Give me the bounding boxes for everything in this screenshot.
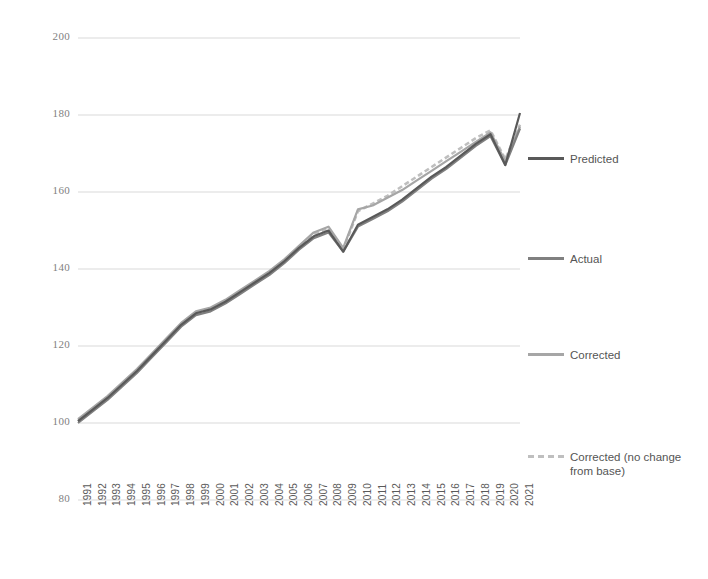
legend-swatch-icon xyxy=(528,152,564,166)
x-axis-tick-1998: 1998 xyxy=(185,483,196,506)
legend-label: Corrected xyxy=(570,348,621,362)
y-axis-tick-140: 140 xyxy=(34,261,70,273)
legend-swatch-icon xyxy=(528,252,564,266)
legend-item-corrected[interactable]: Corrected xyxy=(528,348,708,362)
series-line-predicted xyxy=(78,113,520,421)
y-axis-tick-200: 200 xyxy=(34,30,70,42)
series-line-corrected-no-change-from-base xyxy=(78,125,520,421)
x-axis-tick-2001: 2001 xyxy=(229,483,240,506)
x-axis-tick-2013: 2013 xyxy=(406,483,417,506)
x-axis-tick-1993: 1993 xyxy=(111,483,122,506)
x-axis-tick-2012: 2012 xyxy=(391,483,402,506)
x-axis-tick-2005: 2005 xyxy=(288,483,299,506)
x-axis-tick-1994: 1994 xyxy=(126,483,137,506)
x-axis-tick-2018: 2018 xyxy=(480,483,491,506)
y-axis-tick-100: 100 xyxy=(34,415,70,427)
x-axis-tick-2007: 2007 xyxy=(318,483,329,506)
x-axis-tick-2000: 2000 xyxy=(215,483,226,506)
x-axis-tick-2014: 2014 xyxy=(421,483,432,506)
legend-item-actual[interactable]: Actual xyxy=(528,252,708,266)
x-axis-tick-2003: 2003 xyxy=(259,483,270,506)
legend-swatch-icon xyxy=(528,348,564,362)
legend-swatch-icon xyxy=(528,450,564,464)
x-axis-tick-2011: 2011 xyxy=(377,484,388,506)
x-axis-tick-2010: 2010 xyxy=(362,483,373,506)
y-axis-tick-80: 80 xyxy=(34,492,70,504)
legend-label: Predicted xyxy=(570,152,619,166)
x-axis-tick-1992: 1992 xyxy=(97,483,108,506)
line-chart: 80100120140160180200 1991199219931994199… xyxy=(0,0,708,579)
x-axis-tick-2004: 2004 xyxy=(274,483,285,506)
x-axis-tick-2019: 2019 xyxy=(495,483,506,506)
x-axis-tick-1999: 1999 xyxy=(200,483,211,506)
x-axis-tick-2006: 2006 xyxy=(303,483,314,506)
x-axis-tick-2009: 2009 xyxy=(347,483,358,506)
x-axis-tick-2008: 2008 xyxy=(332,483,343,506)
x-axis-tick-1996: 1996 xyxy=(156,483,167,506)
x-axis-tick-1991: 1991 xyxy=(82,483,93,506)
x-axis-tick-2020: 2020 xyxy=(509,483,520,506)
x-axis-tick-1997: 1997 xyxy=(170,483,181,506)
x-axis-tick-2015: 2015 xyxy=(436,483,447,506)
legend-label: Actual xyxy=(570,252,602,266)
series-line-actual xyxy=(78,128,520,423)
series-line-corrected xyxy=(78,127,520,420)
y-axis-tick-180: 180 xyxy=(34,107,70,119)
x-axis-tick-2002: 2002 xyxy=(244,483,255,506)
chart-legend: PredictedActualCorrectedCorrected (no ch… xyxy=(528,140,708,500)
y-axis-tick-120: 120 xyxy=(34,338,70,350)
x-axis-tick-1995: 1995 xyxy=(141,483,152,506)
legend-label: Corrected (no change from base) xyxy=(570,450,700,478)
y-axis-tick-160: 160 xyxy=(34,184,70,196)
x-axis-tick-2016: 2016 xyxy=(450,483,461,506)
legend-item-corrected-no-change-from-base[interactable]: Corrected (no change from base) xyxy=(528,450,708,478)
legend-item-predicted[interactable]: Predicted xyxy=(528,152,708,166)
x-axis-tick-2017: 2017 xyxy=(465,483,476,506)
